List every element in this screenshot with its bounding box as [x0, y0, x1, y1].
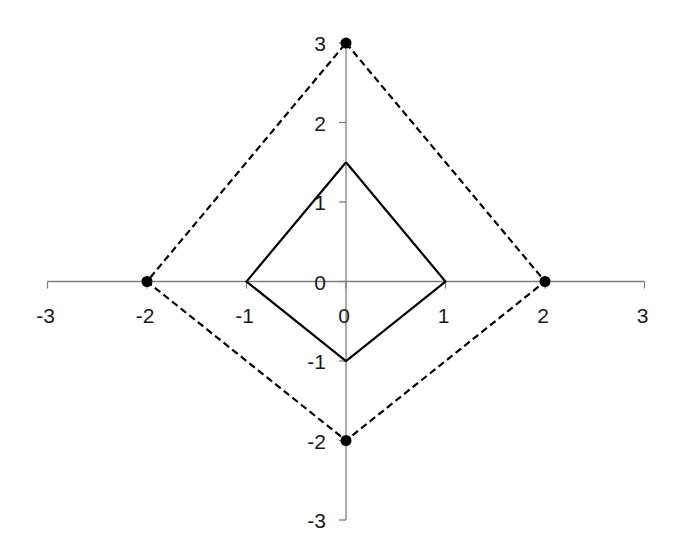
x-tick-label: 0: [338, 304, 350, 327]
x-tick-label: -2: [136, 304, 155, 327]
data-point-marker: [540, 276, 551, 287]
data-point-marker: [341, 38, 352, 49]
chart: -3-2-101233210-1-2-3: [0, 0, 685, 558]
data-point-marker: [142, 276, 153, 287]
x-tick-label: -3: [36, 304, 55, 327]
x-tick-label: -1: [235, 304, 254, 327]
y-tick-label: 1: [314, 191, 326, 214]
y-tick-label: 3: [314, 32, 326, 55]
y-tick-label: -3: [307, 509, 326, 532]
data-point-marker: [341, 435, 352, 446]
y-tick-label: -2: [307, 430, 326, 453]
x-tick-label: 2: [537, 304, 549, 327]
y-tick-label: 0: [314, 271, 326, 294]
y-tick-label: 2: [314, 112, 326, 135]
y-tick-label: -1: [307, 350, 326, 373]
x-tick-label: 1: [438, 304, 450, 327]
axes: [48, 43, 645, 520]
x-tick-label: 3: [637, 304, 649, 327]
